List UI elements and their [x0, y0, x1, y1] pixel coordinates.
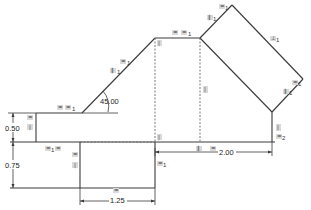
svg-text:|: |: [277, 124, 279, 131]
svg-text:=: =: [114, 187, 119, 193]
svg-text:1: 1: [51, 147, 55, 153]
svg-text:∥: ∥: [208, 14, 211, 21]
svg-text:1: 1: [298, 81, 302, 87]
svg-text:=: =: [182, 29, 187, 35]
svg-text:=: =: [121, 58, 126, 64]
svg-text:=: =: [73, 151, 78, 157]
sketch-canvas[interactable]: 45.00 0.50 0.75 1.25 = 2.00: [0, 0, 311, 210]
svg-text:=: =: [56, 145, 61, 151]
dimension-value[interactable]: 1.25: [110, 196, 125, 205]
svg-text:=: =: [28, 114, 33, 120]
svg-text:2: 2: [282, 135, 286, 141]
svg-text:1: 1: [72, 106, 76, 112]
dimension-1-25[interactable]: 1.25 =: [80, 187, 155, 205]
svg-text:=: =: [66, 104, 71, 110]
rect-edge-d[interactable]: [200, 38, 272, 112]
sketch-geometry: [10, 5, 303, 188]
svg-text:=: =: [211, 145, 216, 151]
svg-text:∥: ∥: [111, 67, 114, 74]
svg-text:∥: ∥: [197, 145, 200, 152]
svg-text:|: |: [158, 134, 160, 141]
svg-text:=: =: [173, 29, 178, 35]
rect-edge-b[interactable]: [232, 5, 303, 79]
svg-text:|: |: [158, 40, 160, 47]
angle-value[interactable]: 45.00: [100, 97, 119, 106]
dimension-value[interactable]: 2.00: [219, 148, 234, 157]
constraint-glyphs: = = 1 = | = 1 = = | = 1 ∥ 1 = = 1 |: [27, 3, 302, 169]
dimension-value[interactable]: 0.75: [5, 161, 20, 170]
svg-text:|: |: [29, 124, 31, 131]
dimension-value[interactable]: 0.50: [5, 124, 20, 133]
svg-text:1: 1: [276, 37, 280, 43]
svg-text:∥: ∥: [284, 88, 287, 95]
svg-text:=: =: [58, 104, 63, 110]
svg-text:1: 1: [163, 162, 167, 168]
svg-text:|: |: [204, 86, 206, 93]
svg-text:|: |: [74, 162, 76, 169]
svg-text:1: 1: [188, 31, 192, 37]
dimension-0-75[interactable]: 0.75: [4, 142, 20, 188]
